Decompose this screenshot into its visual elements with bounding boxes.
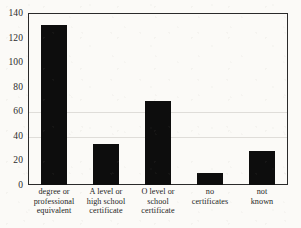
x-tick-label-line: school [132,197,184,207]
bar [93,144,119,185]
bar [249,151,275,185]
x-tick-label-line: high school [80,197,132,207]
y-tick-label: 20 [13,155,23,165]
x-tick-label-line: O level or [132,187,184,197]
y-tick-label: 80 [13,82,23,92]
y-tick-label: 40 [13,131,23,141]
y-tick-label: 60 [13,106,23,116]
bar [145,101,171,185]
x-tick-label-line: equivalent [28,206,80,216]
x-tick-label-line: not [236,187,288,197]
x-tick-label-line: A level or [80,187,132,197]
x-tick-label-line: known [236,197,288,207]
x-tick-label: O level orschoolcertificate [132,187,184,216]
y-tick-label: 100 [8,57,23,67]
x-tick-label-line: degree or [28,187,80,197]
bar-series [28,13,288,185]
x-tick-label-line: professional [28,197,80,207]
x-tick-label-line: certificates [184,197,236,207]
bar [41,25,67,185]
y-tick-label: 140 [8,8,23,18]
x-tick-label: nocertificates [184,187,236,206]
bar [197,173,223,185]
x-tick-label: A level orhigh schoolcertificate [80,187,132,216]
x-tick-label: degree orprofessionalequivalent [28,187,80,216]
y-tick-label: 0 [18,180,23,190]
y-axis: 020406080100120140 [0,0,26,228]
bar-chart-figure: 020406080100120140 degree orprofessional… [0,0,301,228]
x-tick-label-line: certificate [80,206,132,216]
y-tick-label: 120 [8,33,23,43]
x-axis: degree orprofessionalequivalentA level o… [28,187,288,228]
x-tick-label: notknown [236,187,288,206]
x-tick-label-line: no [184,187,236,197]
x-tick-label-line: certificate [132,206,184,216]
